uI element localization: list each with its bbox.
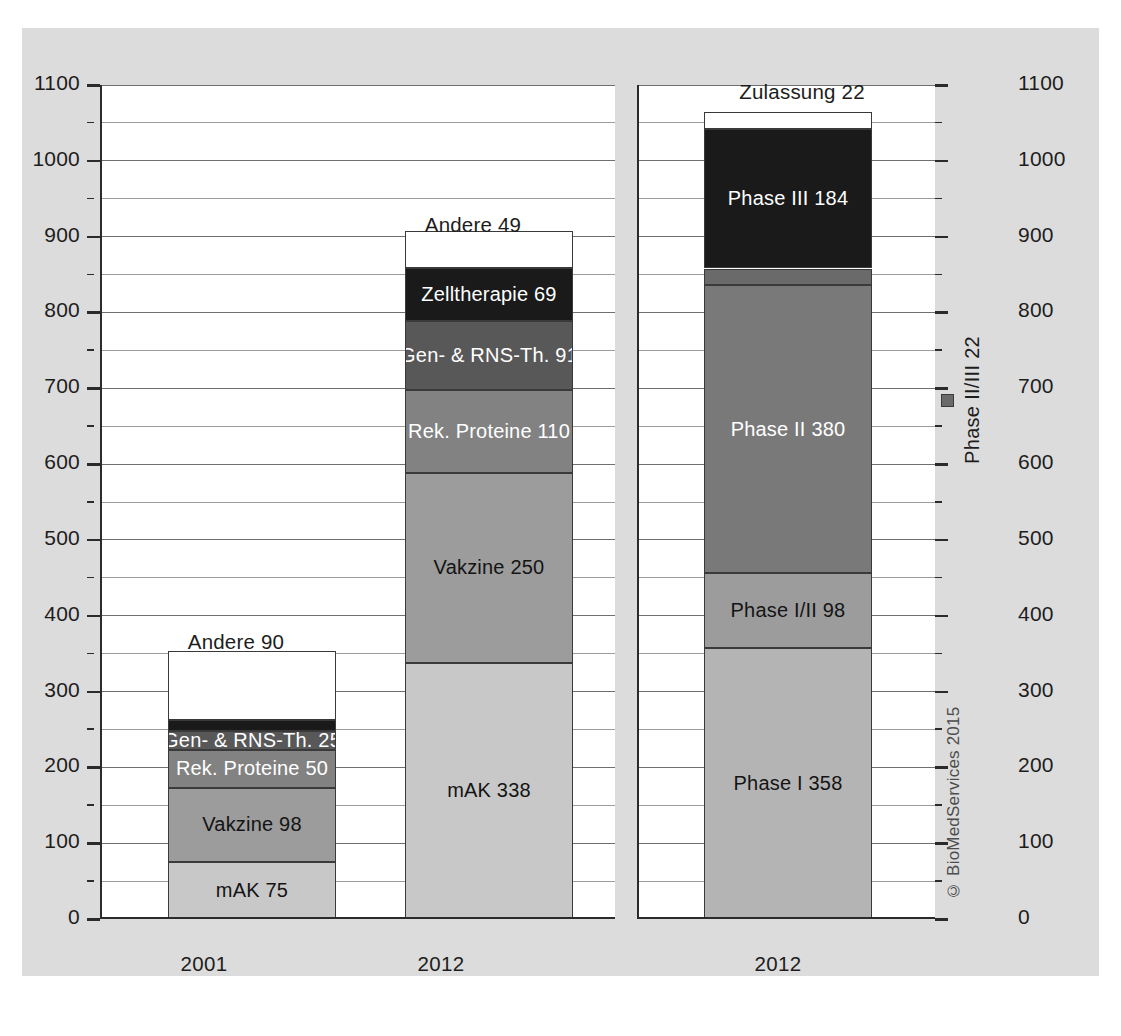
y-axis-tick-label: 400: [1018, 602, 1098, 626]
axis-tick-major: [87, 236, 100, 239]
axis-tick-major: [87, 463, 100, 466]
axis-tick-major: [87, 160, 100, 163]
axis-tick-major: [87, 84, 100, 87]
bar-segment[interactable]: Vakzine 250: [405, 473, 573, 663]
axis-tick-major: [87, 842, 100, 845]
phase-ii-iii-marker-icon: [941, 394, 954, 407]
bar-2012-zulassung-label: Zulassung 22: [662, 80, 942, 104]
bar-segment[interactable]: Vakzine 98: [168, 788, 336, 862]
y-axis-tick-label: 1100: [18, 71, 80, 95]
axis-tick-minor: [87, 653, 94, 655]
y-axis-tick-label: 1000: [1018, 147, 1098, 171]
panel-products-by-technology: mAK 75Vakzine 98Rek. Proteine 50Gen- & R…: [100, 85, 615, 919]
x-axis-line-left: [102, 917, 615, 920]
copyright-credit: © BioMedServices 2015: [944, 690, 964, 900]
bar-segment-label: Gen- & RNS-Th. 25: [168, 731, 336, 750]
bar-segment[interactable]: mAK 338: [405, 663, 573, 919]
axis-tick-minor: [935, 880, 942, 882]
y-axis-tick-label: 0: [18, 905, 80, 929]
axis-tick-minor: [935, 198, 942, 200]
bar-segment-label: mAK 75: [216, 879, 288, 902]
bar-segment-label: Phase I/II 98: [731, 599, 846, 622]
axis-tick-minor: [87, 728, 94, 730]
y-axis-tick-label: 600: [18, 450, 80, 474]
y-axis-tick-label: 600: [1018, 450, 1098, 474]
bar-segment[interactable]: Phase I/II 98: [704, 573, 872, 647]
bar-segment[interactable]: Phase III 184: [704, 129, 872, 269]
axis-tick-major: [87, 615, 100, 618]
bar-segment-label: Rek. Proteine 50: [176, 757, 328, 780]
y-axis-tick-label: 400: [18, 602, 80, 626]
gridline-minor: [102, 122, 615, 123]
plot-area-right: Phase I 358Phase I/II 98Phase II 380Phas…: [637, 85, 935, 919]
gridline-major: [102, 85, 615, 86]
axis-tick-major: [87, 539, 100, 542]
bar-segment-label: Phase I 358: [734, 772, 843, 795]
bar-segment-label: Phase III 184: [728, 187, 848, 210]
axis-tick-minor: [935, 274, 942, 276]
axis-tick-major: [935, 160, 948, 163]
bar-segment[interactable]: Zelltherapie 69: [405, 268, 573, 320]
bar-segment-label: Vakzine 98: [202, 813, 301, 836]
axis-tick-minor: [87, 349, 94, 351]
axis-tick-major: [935, 539, 948, 542]
bar-segment[interactable]: [704, 269, 872, 286]
axis-tick-minor: [87, 577, 94, 579]
y-axis-tick-label: 700: [1018, 374, 1098, 398]
axis-tick-major: [935, 918, 948, 921]
bar-segment-label: mAK 338: [447, 779, 531, 802]
bar-segment[interactable]: mAK 75: [168, 862, 336, 919]
axis-tick-minor: [935, 804, 942, 806]
y-axis-tick-label: 200: [1018, 753, 1098, 777]
axis-tick-minor: [87, 880, 94, 882]
axis-tick-major: [87, 766, 100, 769]
bar-2001-andere-label: Andere 90: [96, 630, 376, 654]
bar-segment[interactable]: Rek. Proteine 110: [405, 390, 573, 473]
y-axis-tick-label: 1000: [18, 147, 80, 171]
y-axis-tick-label: 1100: [1018, 71, 1098, 95]
bar-2012-andere-label: Andere 49: [333, 213, 613, 237]
y-axis-tick-label: 800: [1018, 298, 1098, 322]
panel-products-by-phase: Phase I 358Phase I/II 98Phase II 380Phas…: [637, 85, 935, 919]
x-label-2001: 2001: [104, 952, 304, 976]
axis-tick-major: [935, 236, 948, 239]
y-axis-tick-label: 700: [18, 374, 80, 398]
bar-segment-label: Zelltherapie 69: [421, 283, 556, 306]
y-axis-tick-label: 900: [18, 223, 80, 247]
y-axis-tick-label: 100: [1018, 829, 1098, 853]
axis-tick-major: [935, 615, 948, 618]
bar-segment-label: Gen- & RNS-Th. 91: [405, 344, 573, 367]
gridline-major: [102, 160, 615, 161]
axis-tick-minor: [87, 425, 94, 427]
axis-tick-major: [87, 691, 100, 694]
y-axis-tick-label: 300: [1018, 678, 1098, 702]
callout-label: Phase II/III 22: [961, 336, 984, 464]
axis-tick-minor: [935, 577, 942, 579]
x-label-2012-phase: 2012: [678, 952, 878, 976]
bar-segment[interactable]: Phase II 380: [704, 285, 872, 573]
y-axis-tick-label: 800: [18, 298, 80, 322]
y-axis-tick-label: 500: [1018, 526, 1098, 550]
y-axis-tick-label: 300: [18, 678, 80, 702]
axis-tick-major: [87, 387, 100, 390]
axis-tick-minor: [87, 501, 94, 503]
y-axis-tick-label: 200: [18, 753, 80, 777]
chart-page: mAK 75Vakzine 98Rek. Proteine 50Gen- & R…: [0, 0, 1121, 1036]
axis-tick-major: [87, 311, 100, 314]
axis-tick-minor: [935, 653, 942, 655]
axis-tick-minor: [87, 198, 94, 200]
bar-segment-label: Rek. Proteine 110: [408, 420, 570, 443]
bar-segment[interactable]: [704, 112, 872, 129]
bar-segment[interactable]: [168, 720, 336, 731]
axis-tick-minor: [87, 804, 94, 806]
axis-tick-minor: [935, 728, 942, 730]
bar-segment[interactable]: Rek. Proteine 50: [168, 750, 336, 788]
y-axis-tick-label: 900: [1018, 223, 1098, 247]
bar-segment[interactable]: Phase I 358: [704, 648, 872, 919]
y-axis-tick-label: 500: [18, 526, 80, 550]
axis-tick-minor: [87, 122, 94, 124]
bar-segment[interactable]: [168, 651, 336, 719]
y-axis-tick-label: 100: [18, 829, 80, 853]
bar-segment[interactable]: Gen- & RNS-Th. 91: [405, 321, 573, 390]
bar-segment[interactable]: Gen- & RNS-Th. 25: [168, 731, 336, 750]
